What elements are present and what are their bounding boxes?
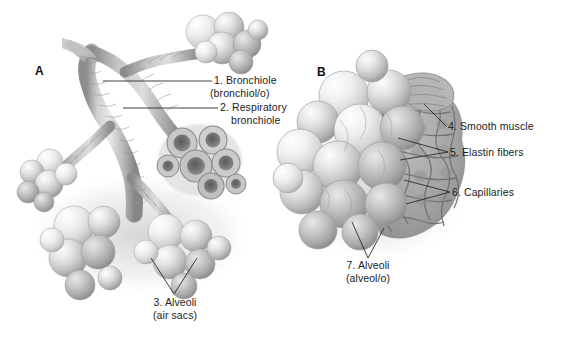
- label-7-term: (alveol/o): [332, 272, 404, 285]
- label-1-main: 1. Bronchiole: [214, 74, 277, 86]
- anatomy-illustration: [0, 0, 564, 339]
- label-2-main-line2: bronchiole: [231, 114, 287, 127]
- panel-letter-a: A: [35, 64, 44, 78]
- label-7-alveoli: 7. Alveoli (alveol/o): [332, 259, 404, 284]
- label-1-term: (bronchiol/o): [210, 87, 277, 100]
- label-6-main: 6. Capillaries: [452, 186, 514, 198]
- label-6-capillaries: 6. Capillaries: [452, 186, 514, 199]
- label-1-bronchiole: 1. Bronchiole (bronchiol/o): [214, 74, 277, 99]
- label-4-main: 4. Smooth muscle: [448, 120, 534, 132]
- label-3-term: (air sacs): [140, 309, 210, 322]
- label-3-alveoli: 3. Alveoli (air sacs): [140, 296, 210, 321]
- label-5-elastin-fibers: 5. Elastin fibers: [450, 146, 523, 159]
- label-5-main: 5. Elastin fibers: [450, 146, 523, 158]
- panel-letter-b: B: [317, 65, 326, 79]
- label-2-main: 2. Respiratory: [220, 101, 287, 113]
- label-2-respiratory-bronchiole: 2. Respiratory bronchiole: [220, 101, 287, 126]
- label-4-smooth-muscle: 4. Smooth muscle: [448, 120, 534, 133]
- label-3-main: 3. Alveoli: [153, 296, 196, 308]
- label-7-main: 7. Alveoli: [346, 259, 389, 271]
